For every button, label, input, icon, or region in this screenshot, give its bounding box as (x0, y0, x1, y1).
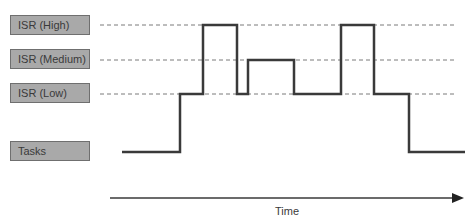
timing-diagram (0, 0, 472, 221)
time-axis-arrowhead-icon (452, 193, 464, 203)
time-axis-label: Time (275, 205, 299, 217)
execution-signal-line (122, 25, 465, 152)
